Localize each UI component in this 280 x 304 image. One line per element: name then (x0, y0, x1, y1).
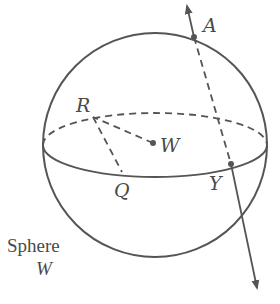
label-A: A (201, 14, 217, 36)
sphere-diagram: A R W Q Y Sphere W (0, 0, 280, 304)
caption-sphere: Sphere (7, 235, 60, 256)
label-Y: Y (209, 172, 224, 194)
caption-W: W (36, 258, 54, 279)
equator-back-dashed (43, 113, 267, 145)
label-R: R (75, 94, 90, 116)
point-W (150, 140, 156, 146)
ray-beyond-Y (231, 164, 257, 288)
label-Q: Q (114, 179, 130, 201)
label-W: W (160, 134, 181, 156)
point-A (191, 34, 197, 40)
ray-beyond-A (187, 6, 194, 37)
segment-RQ (93, 117, 122, 172)
segment-AY (194, 37, 231, 164)
point-Y (228, 161, 234, 167)
segment-WR (93, 117, 153, 143)
